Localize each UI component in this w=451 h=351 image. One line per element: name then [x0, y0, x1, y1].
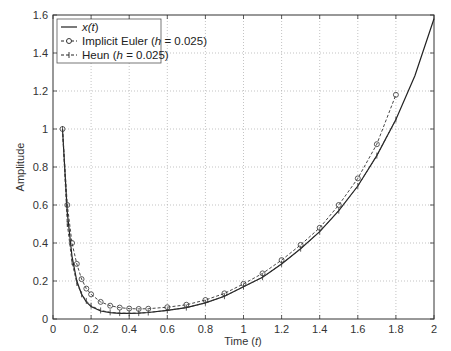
legend-marker-circle-icon: [67, 39, 72, 44]
legend-label-exact: x(t): [81, 21, 99, 33]
y-tick-label: 0.2: [33, 275, 48, 287]
chart: 00.20.40.60.811.21.41.61.8200.20.40.60.8…: [0, 0, 451, 351]
x-tick-label: 1.4: [312, 323, 327, 335]
y-tick-label: 1.2: [33, 85, 48, 97]
y-tick-label: 0.4: [33, 237, 48, 249]
x-tick-label: 0.4: [122, 323, 137, 335]
y-tick-label: 1.4: [33, 47, 48, 59]
y-tick-label: 0.6: [33, 199, 48, 211]
legend: x(t) Implicit Euler (h = 0.025) Heun (h …: [57, 19, 207, 63]
x-tick-label: 2: [431, 323, 437, 335]
y-tick-label: 0.8: [33, 161, 48, 173]
y-tick-label: 1: [42, 123, 48, 135]
data-series: [60, 19, 434, 317]
x-tick-label: 1.2: [274, 323, 289, 335]
x-tick-label: 0: [50, 323, 56, 335]
x-tick-label: 1: [240, 323, 246, 335]
x-tick-label: 0.8: [198, 323, 213, 335]
y-tick-label: 1.6: [33, 9, 48, 21]
y-tick-label: 0: [42, 313, 48, 325]
legend-label-heun: Heun (h = 0.025): [82, 49, 169, 61]
x-axis-label: Time (t): [224, 335, 262, 347]
x-tick-label: 1.8: [388, 323, 403, 335]
x-tick-label: 0.6: [160, 323, 175, 335]
legend-label-implicit-euler: Implicit Euler (h = 0.025): [82, 35, 207, 47]
x-tick-label: 1.6: [350, 323, 365, 335]
x-tick-label: 0.2: [83, 323, 98, 335]
series-heun: [63, 120, 396, 314]
y-axis-label: Amplitude: [14, 143, 26, 192]
